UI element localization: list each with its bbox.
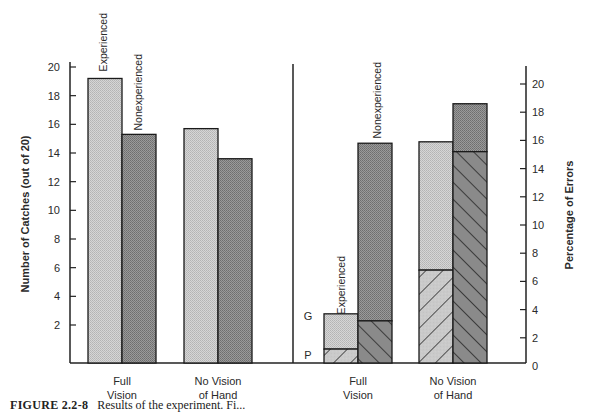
right-y-axis-title: Percentage of Errors: [563, 161, 575, 270]
category-label: of Hand: [434, 389, 473, 401]
left-y-tick-label: 2: [54, 319, 60, 331]
category-label: Full: [349, 375, 367, 387]
stack-g-segment-experienced-1: [419, 142, 453, 270]
stack-g-segment-nonexperienced-1: [453, 104, 487, 152]
right-y-tick-label: 2: [532, 332, 538, 344]
bar-experienced-1: [184, 129, 218, 363]
left-y-tick-label: 18: [48, 90, 60, 102]
stack-p-segment-nonexperienced-0: [358, 321, 392, 363]
left-y-tick-label: 16: [48, 118, 60, 130]
series-label-experienced: Experienced: [97, 13, 109, 72]
category-label: No Vision: [430, 375, 477, 387]
left-y-tick-label: 4: [54, 290, 60, 302]
left-y-tick-label: 6: [54, 262, 60, 274]
right-y-tick-label: 0: [532, 360, 538, 372]
right-y-tick-label: 12: [532, 191, 544, 203]
figure-caption: FIGURE 2.2-8 Results of the experiment. …: [10, 398, 245, 413]
right-y-tick-label: 4: [532, 304, 538, 316]
right-y-tick-label: 16: [532, 134, 544, 146]
segment-label-g: G: [304, 310, 313, 322]
series-label-nonexperienced: Nonexperienced: [371, 62, 383, 139]
stack-p-segment-experienced-0: [324, 349, 358, 363]
category-label: No Vision: [195, 375, 242, 387]
left-y-tick-label: 10: [48, 204, 60, 216]
right-y-tick-label: 8: [532, 247, 538, 259]
caption-figure-number: FIGURE 2.2-8: [10, 398, 88, 412]
segment-label-p: P: [304, 349, 311, 361]
left-y-tick-label: 20: [48, 61, 60, 73]
right-y-tick-label: 10: [532, 219, 544, 231]
right-y-tick-label: 14: [532, 163, 544, 175]
series-label-nonexperienced: Nonexperienced: [132, 54, 144, 131]
left-y-tick-label: 12: [48, 176, 60, 188]
left-y-tick-label: 14: [48, 147, 60, 159]
category-label: Full: [113, 375, 131, 387]
right-y-tick-label: 18: [532, 106, 544, 118]
caption-text: Results of the experiment. Fi...: [97, 398, 245, 412]
right-y-tick-label: 20: [532, 78, 544, 90]
right-y-tick-label: 6: [532, 275, 538, 287]
category-label: Vision: [343, 389, 373, 401]
left-y-axis-title: Number of Catches (out of 20): [19, 135, 31, 292]
stack-p-segment-experienced-1: [419, 270, 453, 363]
bar-nonexperienced-1: [218, 159, 252, 363]
bar-nonexperienced-0: [122, 134, 156, 363]
stack-p-segment-nonexperienced-1: [453, 152, 487, 363]
stack-g-segment-nonexperienced-0: [358, 143, 392, 321]
left-y-tick-label: 8: [54, 233, 60, 245]
chart-layer: 246810121416182002468101214161820Number …: [19, 13, 575, 401]
series-label-experienced: Experienced: [335, 256, 347, 315]
stack-g-segment-experienced-0: [324, 314, 358, 349]
bar-experienced-0: [88, 78, 122, 363]
